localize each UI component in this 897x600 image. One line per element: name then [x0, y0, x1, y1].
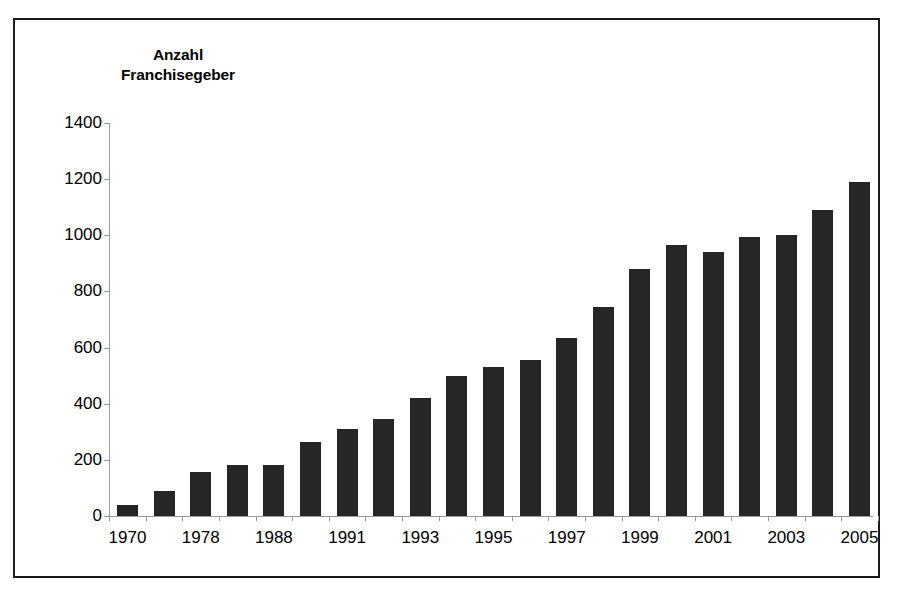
bar	[812, 210, 833, 516]
bar	[117, 505, 138, 516]
bar	[154, 491, 175, 516]
x-axis-tick-mark	[512, 516, 513, 521]
y-axis-tick-mark	[104, 123, 109, 124]
x-axis-tick-mark	[548, 516, 549, 521]
y-axis-tick-label: 1200	[44, 169, 102, 189]
y-axis-tick-mark	[104, 235, 109, 236]
y-axis-tick-label: 600	[44, 338, 102, 358]
x-axis-tick-label: 2003	[756, 528, 816, 548]
y-axis-tick-label: 400	[44, 394, 102, 414]
bar	[776, 235, 797, 516]
x-axis-tick-mark	[365, 516, 366, 521]
x-axis-tick-mark	[402, 516, 403, 521]
x-axis-tick-mark	[695, 516, 696, 521]
y-axis-tick-label: 0	[44, 506, 102, 526]
x-axis-tick-label: 1993	[390, 528, 450, 548]
y-axis-tick-mark	[104, 404, 109, 405]
x-axis-tick-mark	[878, 516, 879, 521]
x-axis-line	[109, 516, 873, 517]
y-axis-line	[109, 123, 110, 516]
x-axis-tick-mark	[219, 516, 220, 521]
bar	[373, 419, 394, 516]
x-axis-tick-label: 1995	[464, 528, 524, 548]
x-axis-tick-mark	[182, 516, 183, 521]
x-axis-tick-mark	[329, 516, 330, 521]
chart-title-line2: Franchisegeber	[121, 66, 235, 83]
x-axis-tick-mark	[841, 516, 842, 521]
x-axis-tick-mark	[731, 516, 732, 521]
bar	[410, 398, 431, 516]
x-axis-tick-mark	[622, 516, 623, 521]
bar	[556, 338, 577, 516]
x-axis-tick-mark	[475, 516, 476, 521]
bar	[703, 252, 724, 516]
x-axis-tick-mark	[805, 516, 806, 521]
bar	[227, 465, 248, 516]
bar	[629, 269, 650, 516]
x-axis-tick-mark	[146, 516, 147, 521]
y-axis-tick-labels: 0200400600800100012001400	[38, 0, 102, 600]
chart-title-line1: Anzahl	[153, 46, 203, 63]
bar	[190, 472, 211, 516]
y-axis-tick-mark	[104, 179, 109, 180]
x-axis-tick-label: 1999	[610, 528, 670, 548]
bar	[849, 182, 870, 516]
bar	[446, 376, 467, 516]
x-axis-tick-label: 2001	[683, 528, 743, 548]
y-axis-tick-label: 800	[44, 281, 102, 301]
bar	[593, 307, 614, 516]
x-axis-tick-mark	[439, 516, 440, 521]
x-axis-tick-mark	[292, 516, 293, 521]
bar	[483, 367, 504, 516]
x-axis-tick-label: 1991	[317, 528, 377, 548]
y-axis-tick-label: 200	[44, 450, 102, 470]
x-axis-tick-label: 1978	[171, 528, 231, 548]
bar	[300, 442, 321, 516]
y-axis-tick-mark	[104, 348, 109, 349]
x-axis-tick-label: 1970	[98, 528, 158, 548]
bar	[666, 245, 687, 516]
x-axis-tick-label: 2005	[830, 528, 890, 548]
y-axis-tick-label: 1400	[44, 113, 102, 133]
y-axis-tick-label: 1000	[44, 225, 102, 245]
x-axis-tick-label: 1988	[244, 528, 304, 548]
bar	[263, 465, 284, 516]
x-axis-tick-label: 1997	[537, 528, 597, 548]
x-axis-tick-mark	[585, 516, 586, 521]
bar	[520, 360, 541, 516]
bar	[739, 237, 760, 516]
x-axis-tick-mark	[109, 516, 110, 521]
y-axis-tick-mark	[104, 460, 109, 461]
x-axis-tick-mark	[768, 516, 769, 521]
x-axis-tick-mark	[658, 516, 659, 521]
bar	[337, 429, 358, 516]
y-axis-tick-mark	[104, 291, 109, 292]
x-axis-tick-mark	[256, 516, 257, 521]
